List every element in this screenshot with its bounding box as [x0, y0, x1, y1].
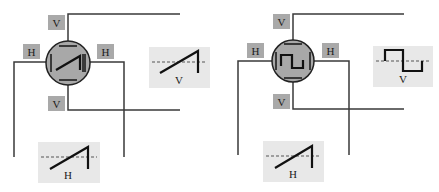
h-left-label: H	[252, 45, 260, 57]
h-signal-panel: H	[263, 141, 324, 182]
diagram-right: V V H H V H	[238, 14, 433, 182]
h-left-wire	[238, 61, 276, 155]
v-signal-label: V	[399, 73, 407, 85]
h-signal-label: H	[64, 169, 72, 181]
h-signal-label: H	[289, 168, 297, 180]
v-top-wire	[68, 14, 180, 46]
oscilloscope-deflection-diagram: V V H H V H	[0, 0, 439, 192]
v-top-label: V	[53, 17, 61, 29]
v-signal-panel: V	[373, 46, 433, 87]
h-right-wire	[310, 61, 349, 155]
v-bottom-label: V	[278, 96, 286, 108]
h-right-label: H	[327, 45, 335, 57]
v-signal-label: V	[175, 74, 183, 86]
h-left-label: H	[28, 46, 36, 58]
h-right-label: H	[102, 46, 110, 58]
v-top-label: V	[278, 16, 286, 28]
diagram-left: V V H H V H	[14, 14, 210, 183]
v-signal-panel: V	[149, 47, 210, 88]
v-top-wire	[293, 14, 404, 44]
v-bottom-label: V	[53, 98, 61, 110]
h-signal-panel: H	[38, 142, 100, 183]
